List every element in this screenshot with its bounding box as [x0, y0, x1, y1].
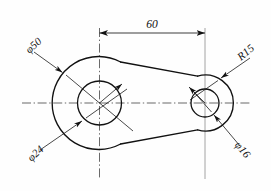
leader-phi24	[40, 121, 82, 150]
construction-line-R15	[190, 81, 218, 101]
phi24-label: φ24	[25, 142, 46, 163]
phi50-label: φ50	[23, 34, 44, 55]
leader-phi16	[214, 115, 240, 146]
R15-label: R15	[234, 41, 257, 63]
leader-phi50	[34, 52, 63, 73]
center-distance-label: 60	[146, 18, 158, 30]
upper-tangent-line	[121, 62, 198, 76]
phi16-label: φ16	[233, 139, 254, 160]
leader-R15	[221, 58, 250, 78]
technical-drawing-canvas: 60 φ50 φ24 R15 φ16	[0, 0, 271, 191]
drawing-svg: 60 φ50 φ24 R15 φ16	[0, 0, 271, 191]
lower-tangent-line	[121, 130, 198, 144]
construction-line-phi16	[192, 90, 212, 112]
